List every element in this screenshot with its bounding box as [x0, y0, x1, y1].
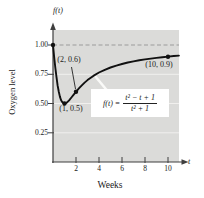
y-axis-symbol: f(t)	[44, 6, 72, 15]
formula-fraction: t² − t + 1 t² + 1	[123, 93, 157, 113]
x-tick-label: 2	[68, 164, 84, 173]
y-tick-label: 0.50	[24, 99, 48, 108]
x-tick-label: 4	[91, 164, 107, 173]
point-label-1-0.5: (1, 0.5)	[49, 104, 93, 113]
y-tick-label: 0.75	[24, 69, 48, 78]
point-label-2-0.6: (2, 0.6)	[47, 55, 91, 64]
y-tick-label: 0.25	[24, 128, 48, 137]
formula-denominator: t² + 1	[123, 104, 157, 114]
y-tick-label: 1.00	[24, 40, 48, 49]
x-tick-label: 10	[160, 164, 176, 173]
y-axis-label: Oxygen level	[7, 46, 19, 138]
formula-numerator: t² − t + 1	[123, 93, 157, 104]
point-label-10-0.9: (10, 0.9)	[135, 60, 183, 69]
x-tick-label: 6	[114, 164, 130, 173]
oxygen-level-figure: f(t) t Oxygen level Weeks 1.00 0.75 0.50…	[0, 0, 204, 198]
x-axis-label: Weeks	[75, 180, 145, 190]
x-tick-label: 8	[137, 164, 153, 173]
x-axis-symbol: t	[188, 157, 190, 166]
formula-callout-box: f(t) = t² − t + 1 t² + 1	[91, 89, 169, 117]
formula-lhs: f(t) =	[103, 99, 120, 108]
